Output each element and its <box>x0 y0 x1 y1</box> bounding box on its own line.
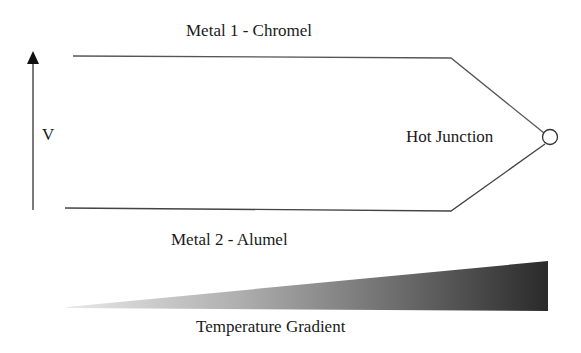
temperature-gradient-wedge <box>67 261 548 311</box>
temperature-gradient-label: Temperature Gradient <box>196 318 345 335</box>
metal1-label: Metal 1 - Chromel <box>186 22 312 39</box>
thermocouple-diagram <box>0 0 581 353</box>
voltage-arrow-icon <box>27 51 39 210</box>
metal2-wire <box>65 144 545 211</box>
hot-junction-circle <box>543 130 558 145</box>
voltage-label: V <box>42 126 54 143</box>
metal2-label: Metal 2 - Alumel <box>171 231 288 248</box>
hot-junction-label: Hot Junction <box>406 128 493 145</box>
metal1-wire <box>73 56 544 133</box>
